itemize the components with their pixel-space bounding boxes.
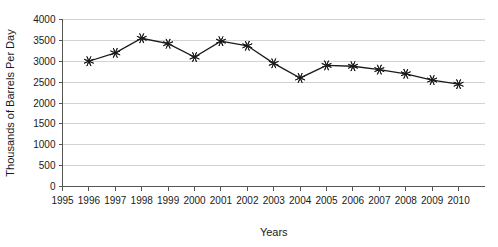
- x-tick-label: 2008: [395, 195, 418, 206]
- y-tick-label: 500: [39, 160, 56, 171]
- x-tick-label: 2003: [263, 195, 286, 206]
- data-point-marker: [190, 52, 200, 62]
- x-axis-title: Years: [260, 226, 288, 238]
- x-tick-label: 2004: [289, 195, 312, 206]
- y-tick-label: 1500: [33, 118, 56, 129]
- data-point-marker: [111, 48, 121, 58]
- y-tick-label: 0: [50, 181, 56, 192]
- x-tick-label: 2006: [342, 195, 365, 206]
- x-tick-label: 2005: [315, 195, 338, 206]
- x-tick-label: 2007: [368, 195, 391, 206]
- x-tick-label: 2001: [210, 195, 233, 206]
- x-tick-label: 1997: [104, 195, 127, 206]
- x-tick-label: 1995: [51, 195, 74, 206]
- y-tick-label: 2000: [33, 98, 56, 109]
- y-tick-label: 2500: [33, 77, 56, 88]
- x-tick-label: 2002: [236, 195, 259, 206]
- x-tick-label: 2000: [183, 195, 206, 206]
- data-point-marker: [295, 73, 305, 83]
- data-point-marker: [269, 59, 279, 69]
- y-axis-title: Thousands of Barrels Per Day: [4, 29, 16, 177]
- line-chart: 0500100015002000250030003500400019951996…: [0, 0, 498, 247]
- x-tick-label: 2010: [447, 195, 470, 206]
- y-tick-label: 3500: [33, 35, 56, 46]
- x-tick-label: 1998: [131, 195, 154, 206]
- x-tick-label: 1999: [157, 195, 180, 206]
- chart-canvas: 0500100015002000250030003500400019951996…: [0, 0, 498, 247]
- x-tick-label: 2009: [421, 195, 444, 206]
- y-tick-label: 4000: [33, 14, 56, 25]
- y-tick-label: 1000: [33, 139, 56, 150]
- y-tick-label: 3000: [33, 56, 56, 67]
- x-tick-label: 1996: [78, 195, 101, 206]
- data-point-marker: [137, 33, 147, 43]
